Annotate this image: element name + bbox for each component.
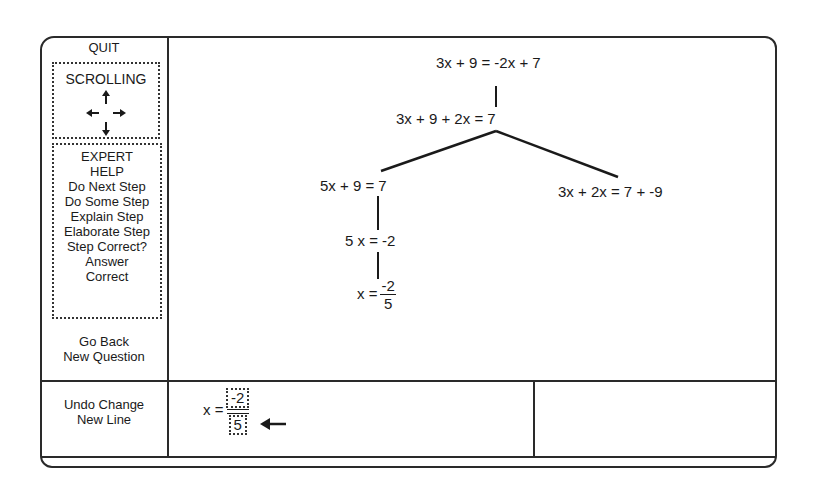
editor-numerator-field[interactable]: -2 [226,388,249,408]
tree-node-left-branch[interactable]: 5x + 9 = 7 [320,177,387,194]
editor-fraction: -2 5 [226,388,249,435]
editor-fraction-bar [227,409,249,414]
tree-node-root[interactable]: 3x + 9 = -2x + 7 [436,54,541,71]
bottom-right-panel [535,382,775,456]
tree-node-right-branch[interactable]: 3x + 2x = 7 + -9 [558,183,663,200]
connector-left-branch [381,131,496,171]
tree-node-step1[interactable]: 3x + 9 + 2x = 7 [396,110,496,127]
connector-right-branch [496,131,618,177]
tree-node-left-step2[interactable]: 5 x = -2 [345,232,395,249]
tree-node-left-step3[interactable]: x =-25 [357,278,396,312]
left-arrow-icon [260,418,286,430]
step3-denominator: 5 [384,295,392,312]
step3-numerator: -2 [380,278,395,295]
editor-lhs: x = [203,401,223,419]
editor-denominator-field[interactable]: 5 [229,415,247,435]
step3-fraction: -25 [380,278,395,312]
step3-lhs: x = [357,285,377,302]
